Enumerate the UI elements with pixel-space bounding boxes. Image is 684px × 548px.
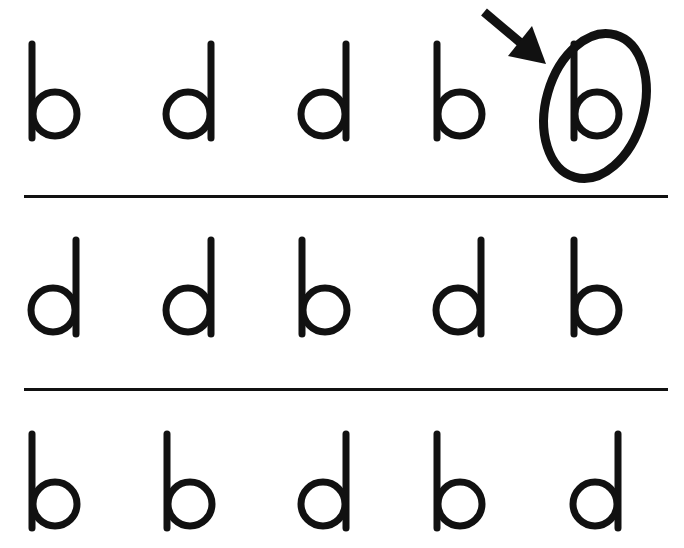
- letter-d: d: [149, 234, 229, 344]
- letter-b: b: [284, 234, 364, 344]
- letter-d: d: [556, 428, 636, 538]
- arrow-icon: [478, 6, 548, 66]
- letter-b: b: [419, 428, 499, 538]
- divider-line-2: [24, 388, 668, 391]
- letter-d: d: [149, 38, 229, 148]
- letter-d: d: [14, 234, 94, 344]
- letter-b: b: [14, 428, 94, 538]
- row-3: b b d b d: [0, 428, 684, 548]
- letter-b: b: [14, 38, 94, 148]
- letter-d: d: [419, 234, 499, 344]
- letter-d: d: [284, 428, 364, 538]
- letter-b: b: [556, 234, 636, 344]
- divider-line-1: [24, 195, 668, 198]
- letter-b: b: [149, 428, 229, 538]
- letter-d: d: [284, 38, 364, 148]
- letter-reversal-worksheet: b d d b b d d b d b b b d b d: [0, 0, 684, 548]
- row-2: d d b d b: [0, 234, 684, 354]
